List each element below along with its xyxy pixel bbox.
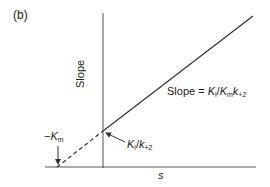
intercept-annotation: Ki/k+2 [127,139,152,151]
x-axis-label: s [158,170,164,181]
slope-line [103,16,253,131]
extrapolation-dashed-line [57,131,103,167]
y-axis-label: Slope [75,60,86,88]
slope-annotation: Slope = Ki/Kmk+2 [167,86,246,98]
neg-km-annotation: −Km [44,131,64,143]
panel-label: (b) [13,9,28,21]
intercept-arrow [106,133,125,142]
